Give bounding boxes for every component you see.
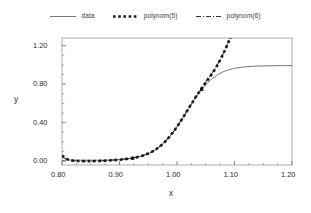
legend-label-polynom5: polynom(5) xyxy=(144,13,178,20)
x-tick-label: 1.00 xyxy=(166,171,180,178)
legend-entry-data: data xyxy=(50,12,94,21)
y-tick-label: 0.40 xyxy=(33,119,47,126)
series-data xyxy=(62,66,292,161)
legend-entry-polynom6: polynom(6) xyxy=(196,12,261,21)
series-polynom6 xyxy=(62,37,231,161)
axis-title-x: x xyxy=(169,190,173,198)
series-polynom5 xyxy=(62,37,231,161)
plot-area xyxy=(0,0,311,213)
x-tick-label: 0.80 xyxy=(51,171,65,178)
chart-figure: data polynom(5) polynom(6) x y 0.800.901… xyxy=(0,0,311,213)
legend-label-data: data xyxy=(81,13,94,20)
y-tick-label: 1.20 xyxy=(33,42,47,49)
legend-swatch-solid-thin xyxy=(50,12,76,21)
legend-swatch-dotted-thick xyxy=(113,12,139,21)
x-tick-label: 0.90 xyxy=(109,171,123,178)
chart-legend: data polynom(5) polynom(6) xyxy=(0,6,311,26)
x-tick-label: 1.10 xyxy=(224,171,238,178)
knot-marker xyxy=(131,157,134,160)
legend-label-polynom6: polynom(6) xyxy=(227,13,261,20)
knot-marker xyxy=(200,88,203,91)
y-tick-label: 0.00 xyxy=(33,157,47,164)
axis-title-y: y xyxy=(14,96,18,104)
y-tick-label: 0.80 xyxy=(33,80,47,87)
plot-frame xyxy=(62,38,292,165)
legend-entry-polynom5: polynom(5) xyxy=(113,12,178,21)
x-tick-label: 1.20 xyxy=(281,171,295,178)
legend-swatch-dashdot xyxy=(196,12,222,21)
